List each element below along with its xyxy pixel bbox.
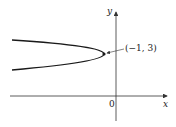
vertex-label: (−1, 3) — [125, 43, 157, 53]
y-axis-label: y — [106, 6, 113, 16]
parabola-curve — [12, 40, 104, 70]
graph-canvas: (−1, 3) y x 0 — [0, 0, 176, 127]
x-axis-label: x — [163, 99, 168, 109]
vertex-point — [102, 52, 105, 55]
origin-label: 0 — [109, 99, 115, 109]
vertex-pointer-arrow — [107, 49, 124, 53]
